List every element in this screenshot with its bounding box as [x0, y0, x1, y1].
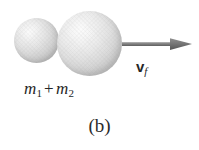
mass-2-symbol: m [56, 79, 69, 98]
figure-caption: (b) [0, 116, 199, 135]
mass-1-sphere [14, 18, 59, 63]
physics-figure: m1+m2 vf (b) [0, 0, 199, 150]
mass-1-symbol: m [24, 79, 37, 98]
plus-operator: + [42, 79, 56, 98]
mass-sum-label: m1+m2 [24, 80, 74, 99]
mass-2-subscript: 2 [69, 87, 75, 99]
velocity-vector-arrow [118, 30, 196, 58]
velocity-subscript: f [144, 65, 147, 77]
velocity-vector-label: vf [136, 59, 147, 77]
mass-2-sphere [57, 11, 122, 76]
